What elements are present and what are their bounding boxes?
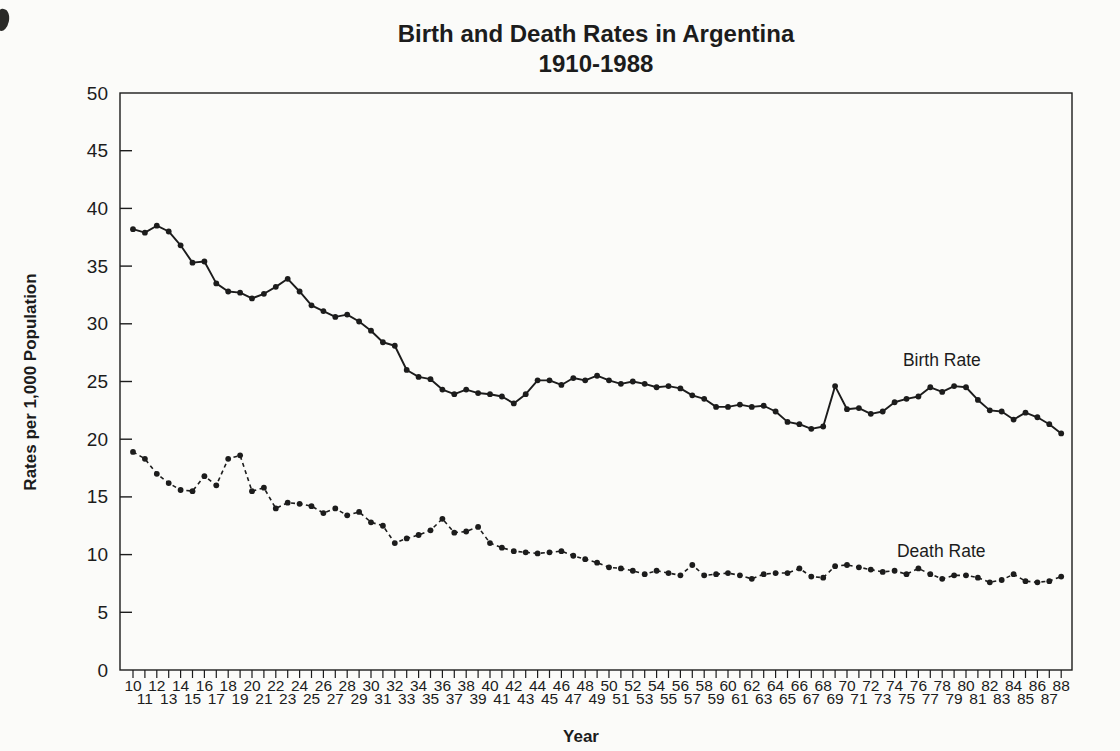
birth-rate-point <box>999 409 1005 415</box>
death-rate-point <box>523 549 529 555</box>
death-rate-point <box>892 568 898 574</box>
y-tick-label: 5 <box>97 602 108 623</box>
y-tick-label: 50 <box>87 83 108 104</box>
death-rate-point <box>856 564 862 570</box>
birth-rate-point <box>273 284 279 290</box>
death-rate-point <box>642 571 648 577</box>
death-rate-point <box>499 545 505 551</box>
death-rate-point <box>178 487 184 493</box>
death-rate-point <box>440 516 446 522</box>
death-rate-point <box>761 571 767 577</box>
birth-rate-point <box>559 382 565 388</box>
death-rate-point <box>261 485 267 491</box>
birth-rate-point <box>725 404 731 410</box>
death-rate-point <box>678 572 684 578</box>
birth-rate-line <box>133 226 1061 434</box>
birth-rate-point <box>963 384 969 390</box>
death-rate-point <box>1011 571 1017 577</box>
death-rate-point <box>1035 579 1041 585</box>
death-rate-point <box>844 562 850 568</box>
death-rate-point <box>380 523 386 529</box>
birth-rate-point <box>332 314 338 320</box>
death-rate-point <box>344 512 350 518</box>
birth-rate-point <box>808 426 814 432</box>
death-rate-point <box>547 549 553 555</box>
birth-rate-point <box>689 392 695 398</box>
birth-rate-point <box>392 343 398 349</box>
death-rate-point <box>939 576 945 582</box>
birth-rate-point <box>916 394 922 400</box>
birth-rate-point <box>701 396 707 402</box>
birth-rate-point <box>202 259 208 265</box>
death-rate-point <box>987 579 993 585</box>
birth-rate-point <box>499 394 505 400</box>
birth-rate-point <box>309 302 315 308</box>
birth-rate-point <box>261 291 267 297</box>
death-rate-point <box>309 503 315 509</box>
death-rate-point <box>832 563 838 569</box>
birth-rate-point <box>154 223 160 229</box>
y-tick-label: 30 <box>87 313 108 334</box>
birth-rate-point <box>642 381 648 387</box>
y-tick-label: 45 <box>87 140 108 161</box>
birth-rate-point <box>225 289 231 295</box>
y-tick-label: 15 <box>87 486 108 507</box>
death-rate-point <box>297 501 303 507</box>
birth-rate-point <box>285 276 291 282</box>
death-rate-point <box>618 566 624 572</box>
death-rate-point <box>594 560 600 566</box>
death-rate-point <box>808 574 814 580</box>
y-tick-label: 35 <box>87 256 108 277</box>
birth-rate-point <box>356 319 362 325</box>
death-rate-point <box>130 449 136 455</box>
birth-rate-point <box>368 328 374 334</box>
birth-rate-point <box>213 281 219 287</box>
line-chart: 0510152025303540455010111213141516171819… <box>0 0 1120 751</box>
death-rate-point <box>166 480 172 486</box>
death-rate-point <box>392 540 398 546</box>
series-label-death-rate: Death Rate <box>897 541 986 561</box>
birth-rate-point <box>939 389 945 395</box>
birth-rate-point <box>166 229 172 235</box>
birth-rate-point <box>773 409 779 415</box>
birth-rate-point <box>428 376 434 382</box>
death-rate-point <box>999 577 1005 583</box>
birth-rate-point <box>570 375 576 381</box>
birth-rate-point <box>666 383 672 389</box>
birth-rate-point <box>904 396 910 402</box>
birth-rate-point <box>761 403 767 409</box>
death-rate-point <box>880 569 886 575</box>
death-rate-point <box>475 524 481 530</box>
birth-rate-point <box>297 289 303 295</box>
death-rate-point <box>904 571 910 577</box>
y-tick-label: 0 <box>97 660 108 681</box>
death-rate-point <box>916 566 922 572</box>
death-rate-point <box>142 456 148 462</box>
birth-rate-point <box>130 226 136 232</box>
x-axis-title: Year <box>481 727 681 747</box>
death-rate-point <box>154 471 160 477</box>
birth-rate-point <box>344 312 350 318</box>
death-rate-point <box>1023 578 1029 584</box>
y-axis-title: Rates per 1,000 Population <box>21 273 41 490</box>
birth-rate-point <box>142 230 148 236</box>
birth-rate-point <box>440 387 446 393</box>
birth-rate-point <box>892 399 898 405</box>
death-rate-point <box>1046 578 1052 584</box>
death-rate-point <box>404 536 410 542</box>
death-rate-point <box>559 548 565 554</box>
death-rate-point <box>225 456 231 462</box>
death-rate-point <box>868 567 874 573</box>
death-rate-point <box>963 572 969 578</box>
birth-rate-point <box>380 339 386 345</box>
birth-rate-point <box>582 377 588 383</box>
birth-rate-point <box>975 397 981 403</box>
birth-rate-point <box>451 391 457 397</box>
birth-rate-point <box>1046 421 1052 427</box>
birth-rate-point <box>606 377 612 383</box>
death-rate-point <box>797 566 803 572</box>
figure-page: Birth and Death Rates in Argentina 1910-… <box>0 0 1120 751</box>
death-rate-point <box>701 572 707 578</box>
death-rate-point <box>927 571 933 577</box>
death-rate-point <box>202 473 208 479</box>
